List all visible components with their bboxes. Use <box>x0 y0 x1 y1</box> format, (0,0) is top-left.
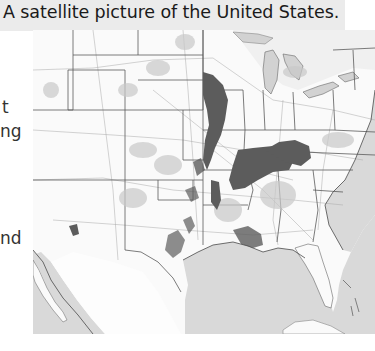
us-satellite-map <box>33 30 375 334</box>
side-text-fragment-1: t <box>2 97 9 117</box>
side-text-fragment-2: ng <box>0 121 22 141</box>
caption-bar: A satellite picture of the United States… <box>0 0 345 31</box>
caption-text: A satellite picture of the United States… <box>3 2 339 22</box>
side-text-fragment-3: nd <box>0 228 22 248</box>
